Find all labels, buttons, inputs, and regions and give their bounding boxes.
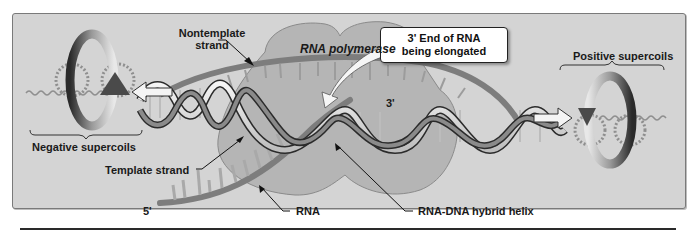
rotation-arrow-up-icon: [100, 72, 130, 95]
nontemplate-label-line-1: Nontemplate: [170, 27, 254, 39]
bottom-rule-divider: [20, 228, 676, 230]
positive-supercoils-brace: [560, 61, 664, 70]
rna-polymerase-label: RNA polymerase: [300, 43, 396, 55]
negative-supercoils-brace: [30, 130, 142, 139]
callout-line-1: 3' End of RNA: [381, 32, 507, 45]
callout-line-2: being elongated: [381, 45, 507, 58]
negative-supercoil-graphic: [26, 34, 134, 126]
five-prime-label: 5': [143, 205, 152, 217]
three-prime-end-callout: 3' End of RNA being elongated: [380, 27, 508, 63]
template-strand-label: Template strand: [105, 164, 189, 176]
nontemplate-label-line-2: strand: [170, 39, 254, 51]
transcription-illustration: [0, 0, 696, 240]
positive-supercoil-graphic: [575, 76, 666, 164]
three-prime-label: 3': [386, 97, 395, 109]
rna-dna-hybrid-helix-label: RNA-DNA hybrid helix: [418, 205, 534, 217]
positive-supercoils-label: Positive supercoils: [573, 50, 673, 62]
rna-label: RNA: [296, 205, 320, 217]
negative-supercoils-label: Negative supercoils: [32, 141, 136, 153]
nontemplate-strand-label: Nontemplate strand: [170, 27, 254, 51]
